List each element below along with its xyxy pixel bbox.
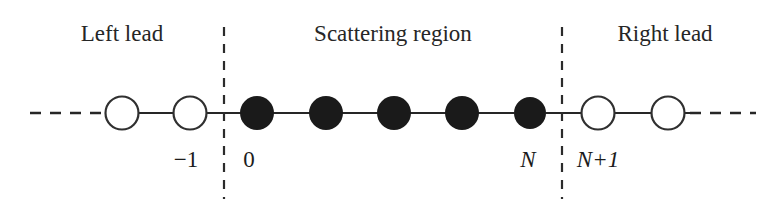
- lead-site-open-circle: [652, 97, 685, 130]
- site-label-minus-1: −1: [174, 148, 198, 171]
- region-label-left-lead: Left lead: [81, 22, 163, 45]
- scattering-site-filled-circle: [240, 96, 274, 130]
- lead-site-open-circle: [582, 97, 615, 130]
- tight-binding-chain-diagram: Left lead Scattering region Right lead −…: [0, 0, 783, 206]
- region-label-right-lead: Right lead: [617, 22, 712, 45]
- scattering-site-filled-circle: [309, 96, 343, 130]
- region-label-scattering-region: Scattering region: [314, 22, 472, 45]
- scattering-site-filled-circle: [514, 97, 546, 129]
- lead-site-open-circle: [174, 97, 207, 130]
- lead-site-open-circle: [106, 97, 139, 130]
- scattering-site-filled-circle: [377, 96, 411, 130]
- site-label-n: N: [520, 148, 535, 171]
- site-label-0: 0: [243, 148, 255, 171]
- scattering-site-filled-circle: [445, 96, 479, 130]
- site-label-n-plus-1: N+1: [577, 148, 619, 171]
